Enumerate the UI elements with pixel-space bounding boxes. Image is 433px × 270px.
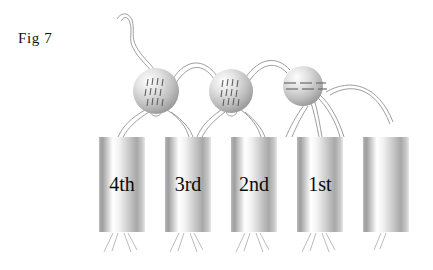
cylinder-label-1st: 1st: [308, 173, 332, 195]
sphere-group: [133, 66, 327, 114]
wavy-inlet-thread: [117, 14, 154, 71]
diagram-svg: 4th 3rd 2nd 1st: [0, 0, 433, 270]
figure-canvas: Fig 7: [0, 0, 433, 270]
bottom-threads: [104, 233, 386, 252]
cylinder-label-2nd: 2nd: [239, 173, 269, 195]
cylinder-label-4th: 4th: [109, 173, 135, 195]
cylinder-label-3rd: 3rd: [175, 173, 202, 195]
sphere-middle: [209, 69, 253, 113]
cylinder-unlabeled: [363, 137, 409, 232]
sphere-left: [133, 68, 179, 114]
